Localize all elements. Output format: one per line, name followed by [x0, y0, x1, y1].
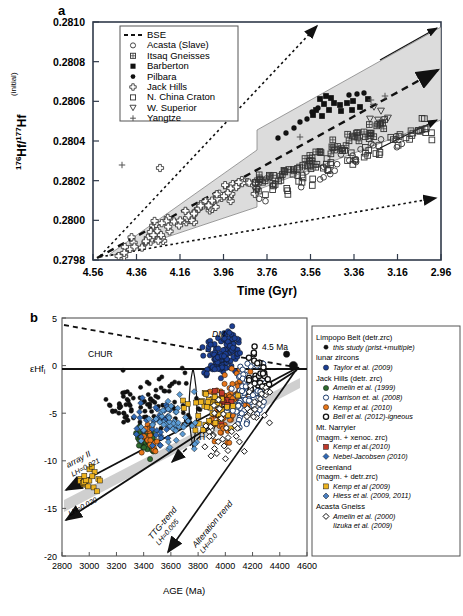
panel-b-legend-item: Harrison et. al. (2008) [323, 393, 402, 402]
panel-b-legend-small-black-dot-icon [324, 345, 328, 349]
panel-b-legend-group-header: Greenland [316, 463, 351, 472]
panel-b-y-tick-label: 0 [52, 361, 57, 371]
panel-a-legend-label: Acasta (Slave) [147, 39, 209, 50]
panel-b-legend-label: Amelin et al. (2000) [332, 512, 395, 521]
panel-b-chur-label: CHUR [88, 349, 113, 359]
panel-b-legend-group-subheader: (magm. + detr.zrc) [316, 472, 378, 481]
panel-b-y-tick-label: -10 [44, 456, 57, 466]
panel-b-legend-item: Hiess et al. (2009, 2011) [323, 491, 411, 500]
panel-a: a 4.564.364.163.963.763.563.36 [9, 3, 451, 298]
panel-a-legend-label: Pilbara [147, 71, 177, 82]
panel-b-legend-open-circle-icon [323, 395, 328, 400]
panel-b-dm-label: DM [212, 329, 226, 339]
panel-b-legend-label: Taylor et al. (2009) [333, 363, 393, 372]
panel-a-x-tick-label: 3.76 [257, 266, 278, 278]
panel-a-x-tick-label: 3.16 [387, 266, 408, 278]
panel-b-legend-item: Taylor et al. (2009) [323, 363, 392, 372]
panel-a-y-tick-label: 0.2810 [53, 16, 85, 28]
panel-b-legend-group-header: Acasta Gneiss [316, 502, 365, 511]
figure-container: a 4.564.364.163.963.763.563.36 [0, 0, 463, 616]
panel-b-legend-item: Amelin et al. (2000) [323, 512, 395, 521]
panel-b-legend-label: Kemp et al. (2010) [333, 403, 392, 412]
panel-a-legend-label: BSE [147, 29, 166, 40]
panel-a-y-ticks: 0.28100.28080.28060.28040.28020.28000.27… [53, 16, 99, 266]
panel-a-y-axis-title: 176Hf/177Hf (initial) [9, 72, 29, 170]
panel-b-legend-item: Bell et al. (2012)-igneous [323, 412, 413, 421]
panel-a-legend-label: W. Superior [147, 102, 197, 113]
panel-b-legend-group-subheader: (magm. + xenoc. zrc) [316, 433, 388, 442]
figure-svg: a 4.564.364.163.963.763.563.36 [0, 0, 463, 616]
panel-b-x-tick-label: 3600 [161, 561, 181, 571]
panel-b-legend-label: Kemp et al (2009) [333, 482, 390, 491]
panel-b-legend-label: Kemp et al.(2010) [333, 442, 390, 451]
panel-a-x-tick-label: 3.96 [213, 266, 234, 278]
panel-b-x-tick-label: 3400 [134, 561, 154, 571]
panel-b-y-tick-label: -5 [49, 409, 57, 419]
panel-a-legend-label: Barberton [147, 60, 189, 71]
panel-b-x-tick-label: 3800 [188, 561, 208, 571]
panel-b-legend-group-header: Mt. Narryier [316, 423, 356, 432]
panel-b-x-tick-label: 4000 [215, 561, 235, 571]
panel-b-legend-item: this study (prist.+multiple) [324, 343, 415, 352]
panel-b-legend-label: this study (prist.+multiple) [333, 343, 415, 352]
panel-b-legend-item: Amelin et al. (1999) [323, 383, 395, 392]
panel-b-legend-group-header: Limpopo Belt (detr.zrc) [316, 333, 393, 342]
panel-b-letter: b [30, 310, 38, 325]
svg-text:176Hf/177Hf: 176Hf/177Hf [14, 114, 29, 170]
panel-a-y-tick-label: 0.2802 [53, 175, 85, 187]
panel-a-legend-filled-square-icon [130, 64, 135, 69]
panel-a-legend-filled-circle-icon [131, 74, 136, 79]
panel-a-x-tick-label: 4.56 [83, 266, 104, 278]
panel-a-y-tick-label: 0.2798 [53, 254, 85, 266]
panel-b-legend-item: Kemp et al.(2010) [324, 442, 391, 451]
panel-b-x-tick-label: 3000 [79, 561, 99, 571]
panel-b-legend-label: Hiess et al. (2009, 2011) [333, 491, 411, 500]
panel-b-age-marker-label: 4.5 Ma [262, 342, 288, 352]
panel-b-legend-label: Iizuka et al. (2009) [333, 521, 392, 530]
panel-b-legend-filled-circle-icon [323, 385, 328, 390]
panel-a-x-tick-label: 2.96 [431, 266, 452, 278]
panel-b-x-tick-label: 4200 [243, 561, 263, 571]
panel-b-legend-label: Nebel-Jacobsen (2010) [333, 452, 408, 461]
panel-a-y-tick-label: 0.2800 [53, 214, 85, 226]
panel-a-y-tick-label: 0.2808 [53, 56, 85, 68]
panel-b-y-tick-label: 5 [52, 314, 57, 324]
panel-a-legend-label: N. China Craton [147, 91, 215, 102]
panel-b-h-label: H [199, 432, 205, 442]
panel-a-y-tick-label: 0.2806 [53, 95, 85, 107]
panel-a-ylabel-hf1: Hf/ [15, 140, 29, 157]
panel-b-legend-item: Iizuka et al. (2009) [333, 521, 392, 530]
panel-a-ylabel-hf2: Hf [15, 114, 29, 128]
panel-b-x-axis-title: AGE (Ma) [163, 585, 205, 596]
panel-b-x-tick-label: 4400 [270, 561, 290, 571]
panel-b-x-tick-label: 4600 [297, 561, 317, 571]
panel-a-x-tick-label: 3.36 [344, 266, 365, 278]
panel-b-legend-label: Amelin et al. (1999) [332, 383, 395, 392]
panel-a-x-tick-label: 4.36 [126, 266, 147, 278]
panel-b-legend-group-header: Jack Hills (detr. zrc) [316, 374, 383, 383]
panel-b-legend-label: Harrison et. al. (2008) [333, 393, 403, 402]
panel-b-y-tick-label: -20 [44, 552, 57, 562]
panel-a-ylabel-sup2: 177 [14, 127, 23, 141]
panel-a-legend-label: Itsaq Gneisses [147, 50, 210, 61]
panel-b-legend-item: Kemp et al (2009) [324, 482, 391, 491]
panel-a-ylabel-sup1: 176 [14, 156, 23, 170]
panel-b-legend-item: Kemp et al. (2010) [323, 403, 392, 412]
panel-b-legend-filled-circle-icon [323, 405, 328, 410]
panel-a-ylabel-sub: (initial) [9, 72, 18, 96]
panel-b: b 280030003200340036003800400 [30, 310, 460, 596]
panel-b-legend-group-header: lunar zircons [316, 353, 359, 362]
panel-a-legend-label: Yangtze [147, 112, 181, 123]
panel-b-y-tick-label: -15 [44, 504, 57, 514]
panel-b-legend-label: Bell et al. (2012)-igneous [333, 412, 413, 421]
panel-b-legend-filled-square-icon [324, 444, 329, 449]
panel-a-legend-label: Jack Hills [147, 81, 187, 92]
panel-b-legend-open-circle-bold-icon [323, 414, 328, 419]
panel-b-legend-filled-circle-icon [323, 365, 328, 370]
panel-b-legend-filled-square-icon [324, 484, 329, 489]
panel-b-y-axis-title: εHfi [30, 363, 46, 375]
panel-a-y-tick-label: 0.2804 [53, 135, 85, 147]
panel-b-x-tick-label: 3200 [106, 561, 126, 571]
panel-b-x-tick-label: 2800 [52, 561, 72, 571]
panel-b-legend-item: Nebel-Jacobsen (2010) [323, 452, 408, 461]
